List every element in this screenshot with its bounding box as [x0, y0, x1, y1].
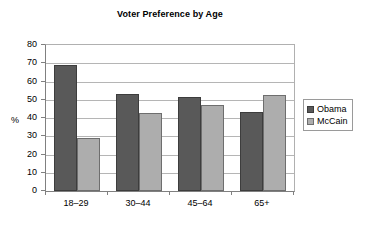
x-tick-mark — [293, 191, 294, 195]
y-tick-label: 40 — [13, 113, 37, 122]
bar — [178, 97, 201, 191]
y-tick-label: 20 — [13, 150, 37, 159]
bar-group — [178, 45, 224, 191]
y-tick-label: 80 — [13, 40, 37, 49]
x-tick-mark — [169, 191, 170, 195]
plot-area — [45, 44, 295, 192]
bar — [116, 94, 139, 191]
bars-layer — [46, 45, 294, 191]
bar — [240, 112, 263, 191]
y-tick-label: 50 — [13, 95, 37, 104]
y-tick-label: 10 — [13, 168, 37, 177]
x-tick-mark — [231, 191, 232, 195]
bar-group — [116, 45, 162, 191]
x-tick-label: 45–64 — [169, 198, 231, 208]
chart-legend: ObamaMcCain — [303, 99, 353, 131]
legend-swatch-icon — [307, 118, 314, 125]
bar — [77, 138, 100, 191]
x-tick-mark — [107, 191, 108, 195]
y-tick-label: 0 — [13, 186, 37, 195]
x-tick-label: 65+ — [231, 198, 293, 208]
x-tick-label: 30–44 — [107, 198, 169, 208]
x-tick-label: 18–29 — [45, 198, 107, 208]
bar — [201, 105, 224, 191]
y-tick-label: 30 — [13, 131, 37, 140]
bar — [54, 65, 77, 191]
bar — [263, 95, 286, 191]
bar — [139, 113, 162, 191]
legend-label: McCain — [317, 117, 348, 126]
bar-group — [54, 45, 100, 191]
bar-chart: Voter Preference by Age % 01020304050607… — [0, 0, 370, 226]
legend-entry[interactable]: McCain — [307, 115, 348, 127]
y-tick-label: 60 — [13, 77, 37, 86]
y-tick-label: 70 — [13, 58, 37, 67]
bar-group — [240, 45, 286, 191]
legend-entry[interactable]: Obama — [307, 103, 348, 115]
legend-label: Obama — [317, 105, 347, 114]
legend-swatch-icon — [307, 106, 314, 113]
x-tick-mark — [45, 191, 46, 195]
